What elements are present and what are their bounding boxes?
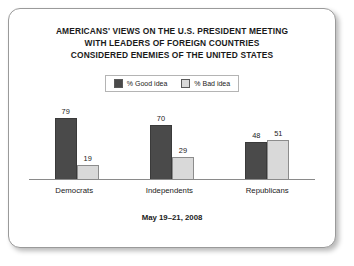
category-label-independents: Independents — [146, 186, 193, 195]
axis-baseline — [29, 179, 315, 180]
chart-title: AMERICANS' VIEWS ON THE U.S. PRESIDENT M… — [9, 25, 335, 62]
bar-value-republicans-bad: 51 — [274, 130, 282, 137]
chart-title-line-2: WITH LEADERS OF FOREIGN COUNTRIES — [9, 37, 335, 49]
legend-item-good-idea: % Good idea — [114, 79, 167, 88]
bar-group-democrats: 79 19 — [55, 108, 99, 179]
bar-col-republicans-good: 48 — [245, 132, 267, 179]
category-label-democrats: Democrats — [55, 186, 93, 195]
legend-swatch-good-idea — [114, 79, 123, 88]
bar-democrats-bad — [77, 165, 99, 180]
bar-republicans-bad — [267, 140, 289, 180]
plot-area: 79 19 70 29 48 — [29, 106, 315, 180]
legend-wrap: % Good idea % Bad idea — [9, 75, 335, 92]
category-label-republicans: Republicans — [246, 186, 289, 195]
legend-label-bad-idea: % Bad idea — [194, 80, 230, 87]
bar-value-independents-good: 70 — [157, 115, 165, 122]
bar-col-independents-bad: 29 — [172, 147, 194, 179]
chart-title-line-1: AMERICANS' VIEWS ON THE U.S. PRESIDENT M… — [9, 25, 335, 37]
chart-legend: % Good idea % Bad idea — [105, 75, 239, 92]
chart-card: AMERICANS' VIEWS ON THE U.S. PRESIDENT M… — [8, 8, 336, 248]
bar-col-democrats-bad: 19 — [77, 155, 99, 179]
legend-label-good-idea: % Good idea — [127, 80, 167, 87]
bar-independents-good — [150, 125, 172, 180]
chart-footer-date: May 19–21, 2008 — [9, 213, 335, 222]
category-labels: Democrats Independents Republicans — [29, 186, 315, 195]
legend-item-bad-idea: % Bad idea — [181, 79, 230, 88]
legend-swatch-bad-idea — [181, 79, 190, 88]
bar-groups: 79 19 70 29 48 — [29, 106, 315, 180]
bar-value-democrats-good: 79 — [62, 108, 70, 115]
bar-independents-bad — [172, 157, 194, 180]
bar-value-republicans-good: 48 — [252, 132, 260, 139]
bar-col-republicans-bad: 51 — [267, 130, 289, 179]
chart-title-line-3: CONSIDERED ENEMIES OF THE UNITED STATES — [9, 49, 335, 61]
bar-group-independents: 70 29 — [150, 115, 194, 179]
bar-republicans-good — [245, 142, 267, 180]
bar-col-democrats-good: 79 — [55, 108, 77, 179]
bar-group-republicans: 48 51 — [245, 130, 289, 179]
bar-democrats-good — [55, 118, 77, 180]
bar-value-democrats-bad: 19 — [84, 155, 92, 162]
bar-value-independents-bad: 29 — [179, 147, 187, 154]
bar-col-independents-good: 70 — [150, 115, 172, 179]
